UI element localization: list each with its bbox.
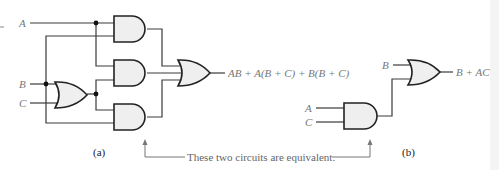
and-gate (344, 103, 377, 129)
right-arrow-line (332, 142, 370, 157)
input-label-a: A (18, 17, 26, 29)
junction-dot (94, 92, 99, 97)
circuit-diagram: A B C (0, 0, 499, 170)
or-gate (408, 60, 440, 85)
arrow-up-icon (368, 139, 373, 145)
equivalence-annotation: These two circuits are equivalent. (143, 139, 373, 163)
caption-b: (b) (402, 146, 415, 159)
and-gate-2 (114, 60, 145, 86)
circuit-a: A B C (18, 16, 349, 159)
input-label-b: B (19, 78, 26, 90)
or-gate-output (178, 60, 210, 86)
left-arrow-line (145, 142, 185, 157)
junction-dot (44, 82, 49, 87)
output-expression-a: AB + A(B + C) + B(B + C) (227, 67, 349, 80)
page-edge (490, 0, 499, 170)
junction-dot (94, 21, 99, 26)
equivalence-note: These two circuits are equivalent. (187, 151, 335, 163)
arrow-up-icon (143, 139, 148, 145)
caption-a: (a) (93, 146, 106, 159)
or-gate-input (55, 82, 87, 108)
input-label-a: A (304, 102, 312, 114)
and-gate-1 (114, 16, 145, 42)
input-label-c: C (305, 116, 313, 128)
input-label-b: B (382, 59, 389, 71)
input-label-c: C (19, 97, 27, 109)
and-gate-3 (114, 104, 145, 130)
output-expression-b: B + AC (456, 66, 490, 78)
